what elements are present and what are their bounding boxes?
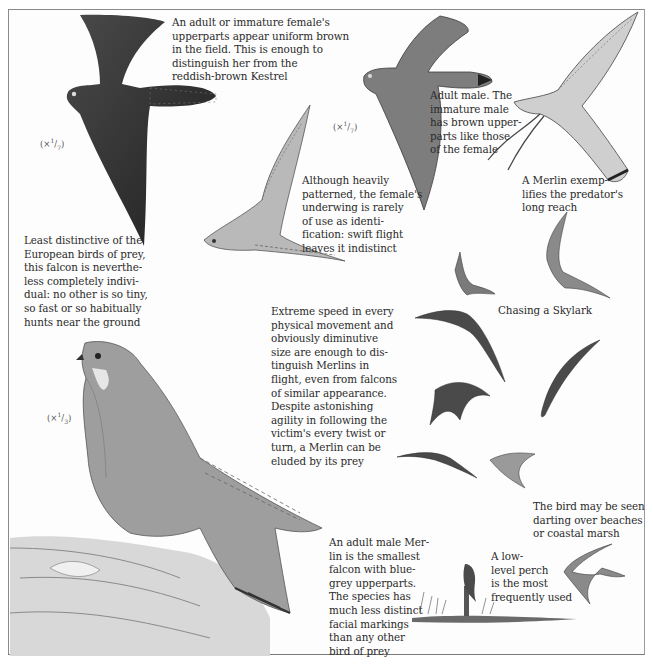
caption-beaches: The bird may be seen darting over beache… [533, 500, 645, 541]
scale-prefix: (× [40, 139, 50, 149]
skylark-chase-sequence-illustration [395, 210, 615, 490]
scale-suffix: ) [354, 122, 357, 132]
scale-label-top-middle: (×1/7) [333, 120, 357, 134]
scale-label-bottom-left: (×1/3) [47, 411, 71, 425]
scale-prefix: (× [333, 122, 343, 132]
caption-underwing: Although heavily patterned, the female's… [302, 174, 422, 256]
caption-female-upperparts: An adult or immature female's upperparts… [172, 16, 349, 84]
caption-extreme-speed: Extreme speed in every physical movement… [271, 305, 397, 468]
scale-suffix: ) [61, 139, 64, 149]
scale-suffix: ) [68, 413, 71, 423]
scale-label-top-left: (×1/7) [40, 137, 64, 151]
scale-numerator: 1 [50, 137, 54, 144]
scale-numerator: 1 [57, 411, 61, 418]
scale-numerator: 1 [343, 120, 347, 127]
caption-low-perch: A low- level perch is the most frequentl… [491, 550, 572, 604]
caption-least-distinctive: Least distinctive of the European birds … [24, 234, 148, 329]
caption-long-reach: A Merlin exemp- lifies the predator's lo… [522, 174, 623, 215]
caption-chasing-skylark: Chasing a Skylark [498, 304, 592, 318]
scale-prefix: (× [47, 413, 57, 423]
caption-adult-male: Adult male. The immature male has brown … [430, 89, 521, 157]
caption-adult-male-smallest: An adult male Mer- lin is the smallest f… [329, 536, 429, 658]
